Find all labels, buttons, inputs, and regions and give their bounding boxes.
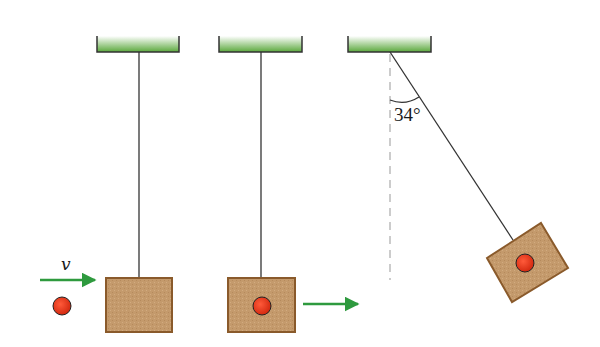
pendulum-string — [390, 52, 513, 240]
velocity-label: v — [61, 254, 71, 274]
stage-after-collision — [219, 36, 358, 332]
ceiling-support — [97, 36, 179, 52]
wooden-block — [106, 278, 172, 332]
bullet-ball — [53, 297, 71, 315]
ceiling-support — [348, 36, 431, 52]
embedded-ball — [516, 254, 534, 272]
angle-label: 34° — [394, 104, 421, 126]
ballistic-pendulum-diagram: v 34° — [0, 0, 600, 347]
ceiling-support — [219, 36, 302, 52]
angle-arc — [390, 97, 419, 102]
embedded-ball — [253, 297, 271, 315]
stage-before-collision — [40, 36, 179, 332]
stage-max-swing — [348, 36, 568, 302]
